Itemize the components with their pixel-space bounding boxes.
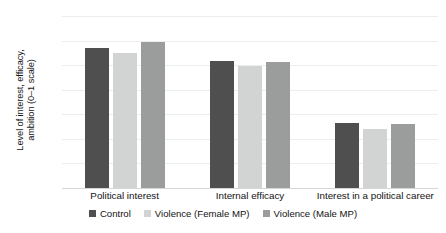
bar-chart: Level of interest, efficacy, ambition (0… bbox=[0, 0, 446, 233]
bar bbox=[113, 53, 137, 188]
x-axis-category-label: Interest in a political career bbox=[313, 190, 438, 201]
bar-group bbox=[62, 16, 187, 188]
x-axis-category-label: Internal efficacy bbox=[187, 190, 312, 201]
legend-swatch-icon bbox=[263, 210, 270, 217]
x-axis-category-label: Political interest bbox=[62, 190, 187, 201]
bar-group bbox=[313, 16, 438, 188]
legend-label: Control bbox=[100, 208, 131, 219]
bar bbox=[391, 124, 415, 188]
bar bbox=[141, 42, 165, 188]
bar bbox=[335, 123, 359, 188]
y-axis-title-line-2: ambition (0–1 scale) bbox=[26, 59, 38, 141]
chart-legend: ControlViolence (Female MP)Violence (Mal… bbox=[0, 208, 446, 219]
bar-group bbox=[187, 16, 312, 188]
bar bbox=[363, 129, 387, 188]
bar bbox=[210, 61, 234, 188]
legend-label: Violence (Female MP) bbox=[155, 208, 250, 219]
x-axis-category-labels: Political interestInternal efficacyInter… bbox=[62, 190, 438, 201]
legend-item[interactable]: Violence (Male MP) bbox=[263, 208, 358, 219]
gridline bbox=[62, 188, 438, 189]
bar bbox=[266, 62, 290, 188]
legend-label: Violence (Male MP) bbox=[274, 208, 358, 219]
legend-swatch-icon bbox=[144, 210, 151, 217]
y-axis-title-line-1: Level of interest, efficacy, bbox=[15, 49, 27, 150]
legend-item[interactable]: Violence (Female MP) bbox=[144, 208, 250, 219]
legend-swatch-icon bbox=[89, 210, 96, 217]
bar-groups bbox=[62, 16, 438, 188]
bar bbox=[85, 48, 109, 188]
legend-item[interactable]: Control bbox=[89, 208, 131, 219]
bar bbox=[238, 66, 262, 188]
y-axis-title: Level of interest, efficacy, ambition (0… bbox=[13, 5, 39, 195]
